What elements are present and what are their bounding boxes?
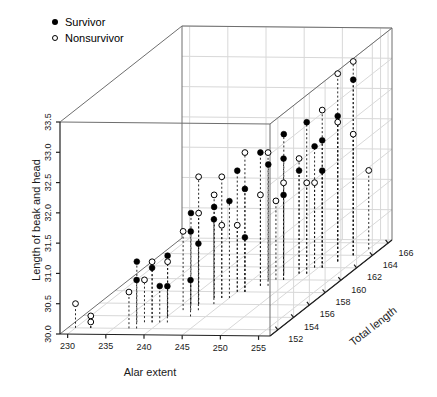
data-point-nonsurvivor [350,131,356,137]
data-point-nonsurvivor [196,174,202,180]
data-point-survivor [227,198,233,204]
data-point-survivor [281,156,287,162]
data-point-survivor [242,234,248,240]
wall-grid-y [270,210,392,306]
data-point-nonsurvivor [126,289,132,295]
data-point-survivor [134,277,140,283]
floor-grid-z [68,328,278,330]
data-point-survivor [234,168,240,174]
data-point-survivor [188,229,194,235]
z-tick-label: 166 [398,248,413,258]
box-edge-top-rear [182,26,392,28]
data-point-survivor [134,259,140,265]
y-tick-label: 30.0 [43,325,53,343]
x-tick-label: 240 [136,342,151,352]
data-point-survivor [281,192,287,198]
leftwall-grid-y [182,117,392,119]
box-edge-top-front [60,122,270,124]
data-point-nonsurvivor [296,156,302,162]
data-point-nonsurvivor [242,150,248,156]
data-point-nonsurvivor [196,210,202,216]
data-point-nonsurvivor [88,319,94,325]
data-point-survivor [164,283,170,289]
data-point-nonsurvivor [73,301,79,307]
wall-grid-y [270,149,392,245]
z-tick-label: 164 [383,260,398,270]
x-tick-label: 230 [60,341,75,351]
z-tick-label: 162 [367,272,382,282]
wall-grid-y [270,58,392,154]
data-point-nonsurvivor [335,119,341,125]
data-point-nonsurvivor [149,259,155,265]
scatter3d-chart: 30.030.531.031.532.032.533.033.523023524… [0,0,437,397]
wall-grid-y [270,119,392,215]
data-point-nonsurvivor [319,107,325,113]
data-point-survivor [149,265,155,271]
data-point-nonsurvivor [281,180,287,186]
data-point-survivor [265,162,271,168]
data-point-nonsurvivor [219,222,225,228]
data-point-nonsurvivor [165,259,171,265]
axis-lines-and-ticks [56,122,392,340]
data-point-survivor [335,113,341,119]
wall-grid-y [270,179,392,275]
data-point-survivor [157,283,163,289]
data-point-nonsurvivor [88,313,94,319]
data-point-nonsurvivor [265,150,271,156]
y-tick-label: 33.0 [43,144,53,162]
y-tick-label: 33.5 [43,113,53,131]
data-point-survivor [195,241,201,247]
data-point-nonsurvivor [219,174,225,180]
x-axis-line [60,334,270,336]
data-point-survivor [188,210,194,216]
y-tick-label: 31.5 [43,234,53,252]
data-point-nonsurvivor [142,277,148,283]
data-point-nonsurvivor [273,198,279,204]
y-tick-label: 32.5 [43,174,53,192]
data-point-nonsurvivor [234,222,240,228]
y-tick-label: 31.0 [43,265,53,283]
data-point-survivor [211,216,217,222]
data-point-survivor [258,150,264,156]
data-point-survivor [296,168,302,174]
legend-label-survivor: Survivor [65,16,105,28]
leftwall-grid-y [182,147,392,149]
data-point-survivor [188,277,194,283]
legend-item-survivor: Survivor [52,14,124,30]
data-point-survivor [312,143,318,149]
x-tick-label: 245 [175,342,190,352]
z-tick-label: 156 [320,309,335,319]
wall-grid-y [270,89,392,185]
data-point-survivor [211,204,217,210]
data-point-survivor [304,119,310,125]
floor-grid-z [84,315,294,317]
data-point-nonsurvivor [258,192,264,198]
chart-canvas: 30.030.531.031.532.032.533.033.523023524… [0,0,437,397]
legend-label-nonsurvivor: Nonsurvivor [65,32,124,44]
data-point-survivor [165,253,171,259]
z-tick-label: 154 [304,322,319,332]
legend-item-nonsurvivor: Nonsurvivor [52,30,124,46]
data-point-nonsurvivor [350,59,356,65]
leftwall-grid-y [182,56,392,58]
x-tick-label: 250 [213,343,228,353]
x-axis-title: Alar extent [0,366,300,378]
floor-grid-lines [68,238,388,336]
y-tick-label: 30.5 [43,295,53,313]
leftwall-grid-y [182,87,392,89]
y-tick-label: 32.0 [43,204,53,222]
data-point-nonsurvivor [335,71,341,77]
x-tick-label: 255 [251,343,266,353]
leftwall-grid-y [182,177,392,179]
data-point-survivor [281,131,287,137]
open-circle-icon [52,35,58,41]
data-point-nonsurvivor [312,180,318,186]
x-tick-label: 235 [98,341,113,351]
z-tick-label: 160 [351,285,366,295]
z-tick-label: 158 [336,297,351,307]
filled-circle-icon [52,19,58,25]
data-point-nonsurvivor [366,168,372,174]
data-point-nonsurvivor [180,228,186,234]
legend: Survivor Nonsurvivor [52,14,124,46]
data-point-survivor [319,137,325,143]
